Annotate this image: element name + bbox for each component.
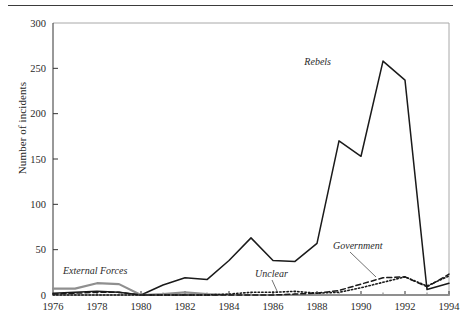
y-tick-label: 0: [41, 290, 46, 301]
x-tick-label: 1986: [263, 301, 284, 312]
series-label-unclear: Unclear: [255, 268, 288, 279]
series-line-rebels: [53, 61, 449, 295]
leader-line-unclear: [272, 280, 277, 291]
series-group: [53, 61, 449, 295]
line-chart-plot: 0501001502002503001976197819801982198419…: [0, 0, 461, 325]
x-tick-label: 1990: [351, 301, 372, 312]
y-tick-label: 250: [30, 63, 46, 74]
x-tick-label: 1988: [307, 301, 328, 312]
annotations-group: External ForcesUnclearGovernmentRebels: [62, 56, 383, 291]
y-tick-label: 300: [30, 18, 46, 29]
y-tick-label: 50: [36, 244, 47, 255]
y-tick-label: 150: [30, 154, 46, 165]
series-label-government: Government: [333, 240, 383, 251]
x-tick-label: 1994: [439, 301, 461, 312]
x-tick-label: 1980: [131, 301, 152, 312]
x-tick-label: 1992: [395, 301, 416, 312]
x-tick-label: 1982: [175, 301, 196, 312]
x-tick-label: 1976: [43, 301, 64, 312]
series-label-external-forces: External Forces: [62, 265, 127, 276]
leader-line-government: [350, 252, 376, 277]
y-tick-label: 100: [30, 199, 46, 210]
figure-container: Number of incidents 05010015020025030019…: [0, 0, 461, 325]
y-tick-label: 200: [30, 108, 46, 119]
x-tick-label: 1984: [219, 301, 241, 312]
x-tick-label: 1978: [87, 301, 108, 312]
series-label-rebels: Rebels: [303, 56, 331, 67]
